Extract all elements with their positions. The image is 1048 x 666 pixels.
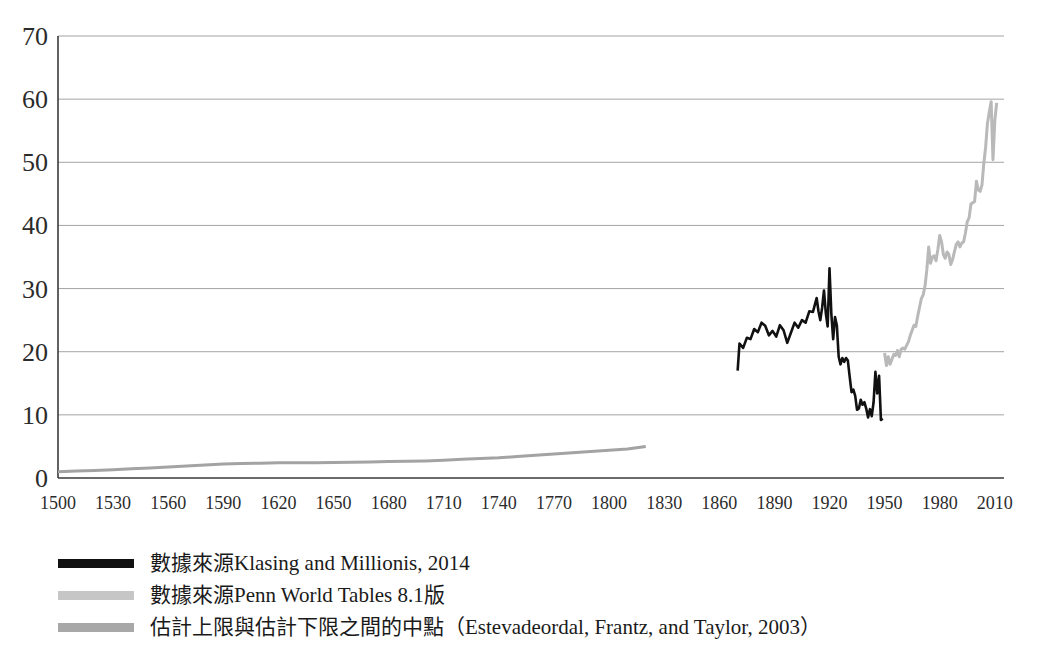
data-series-group [58, 102, 997, 472]
series-line-1 [885, 102, 997, 366]
x-tick-label-1560: 1560 [150, 493, 186, 513]
series-line-0 [738, 268, 883, 420]
x-tick-label-1920: 1920 [811, 493, 847, 513]
x-tick-label-1680: 1680 [371, 493, 407, 513]
x-tick-label-1860: 1860 [701, 493, 737, 513]
legend-label-klasing-millionis: 數據來源Klasing and Millionis, 2014 [150, 553, 470, 574]
series-line-2 [58, 446, 646, 471]
legend-label-penn-world-tables: 數據來源Penn World Tables 8.1版 [150, 585, 445, 606]
x-tick-label-1890: 1890 [756, 493, 792, 513]
figure-container: 010203040506070 150015301560159016201650… [0, 0, 1048, 666]
x-tick-label-1800: 1800 [591, 493, 627, 513]
x-tick-label-1650: 1650 [316, 493, 352, 513]
legend-label-estevadeordal: 估計上限與估計下限之間的中點（Estevadeordal, Frantz, an… [150, 617, 821, 638]
x-tick-label-1740: 1740 [481, 493, 517, 513]
line-chart-svg: 010203040506070 150015301560159016201650… [0, 0, 1048, 540]
legend-item-penn-world-tables: 數據來源Penn World Tables 8.1版 [58, 580, 1038, 610]
legend-swatch-klasing-millionis [58, 559, 134, 568]
y-tick-label-70: 70 [22, 22, 48, 51]
y-tick-label-0: 0 [35, 464, 48, 493]
chart-legend: 數據來源Klasing and Millionis, 2014 數據來源Penn… [58, 548, 1038, 644]
x-tick-label-1500: 1500 [40, 493, 76, 513]
y-tick-label-20: 20 [22, 338, 48, 367]
y-tick-label-50: 50 [22, 148, 48, 177]
legend-item-klasing-millionis: 數據來源Klasing and Millionis, 2014 [58, 548, 1038, 578]
x-tick-label-2010: 2010 [977, 493, 1013, 513]
gridlines-group [58, 36, 1004, 415]
y-tick-label-60: 60 [22, 85, 48, 114]
x-tick-labels-group: 1500153015601590162016501680171017401770… [40, 493, 1013, 513]
y-tick-label-10: 10 [22, 401, 48, 430]
x-tick-label-1530: 1530 [95, 493, 131, 513]
y-tick-labels-group: 010203040506070 [22, 22, 48, 493]
x-tick-label-1980: 1980 [922, 493, 958, 513]
x-tick-label-1830: 1830 [646, 493, 682, 513]
x-tick-label-1620: 1620 [260, 493, 296, 513]
legend-item-estevadeordal: 估計上限與估計下限之間的中點（Estevadeordal, Frantz, an… [58, 612, 1038, 642]
x-tick-label-1770: 1770 [536, 493, 572, 513]
y-tick-label-40: 40 [22, 211, 48, 240]
legend-swatch-estevadeordal [58, 623, 134, 632]
y-tick-label-30: 30 [22, 275, 48, 304]
x-tick-label-1590: 1590 [205, 493, 241, 513]
axis-lines-group [58, 36, 1004, 478]
chart-plot-area: 010203040506070 150015301560159016201650… [0, 0, 1048, 540]
x-tick-label-1950: 1950 [867, 493, 903, 513]
legend-swatch-penn-world-tables [58, 591, 134, 600]
x-tick-label-1710: 1710 [426, 493, 462, 513]
